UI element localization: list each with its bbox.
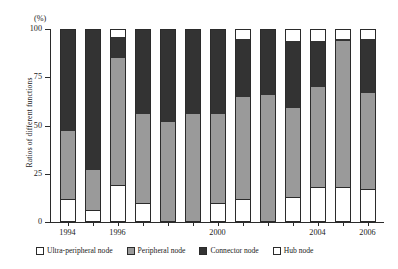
bar-segment-2003-conn [285, 41, 301, 109]
bar-segment-1996-conn [110, 37, 126, 58]
bar-segment-1997-periph [135, 114, 151, 203]
plot-area [51, 29, 384, 222]
bar-segment-2004-hub [310, 29, 326, 41]
legend-label-3: Hub node [284, 246, 314, 255]
legend-item-3[interactable]: Hub node [273, 246, 314, 255]
bar-segment-2006-periph [360, 93, 376, 190]
x-tick-1998 [168, 222, 169, 226]
y-tick-25 [45, 174, 50, 175]
bar-1999 [185, 29, 201, 222]
y-tick-label-50: 50 [18, 122, 42, 130]
bar-segment-2006-hub [360, 29, 376, 39]
bar-segment-2005-periph [335, 41, 351, 188]
x-tick-2006 [368, 222, 369, 226]
bar-segment-2003-periph [285, 108, 301, 197]
bar-segment-2006-ultra [360, 189, 376, 222]
bar-segment-2005-hub [335, 29, 351, 39]
x-tick-2004 [318, 222, 319, 226]
y-tick-0 [45, 222, 50, 223]
x-tick-label-1996: 1996 [98, 228, 138, 237]
bar-1996 [110, 29, 126, 222]
bar-segment-1994-periph [60, 131, 76, 199]
bar-segment-2001-hub [235, 29, 251, 39]
bar-segment-1997-ultra [135, 203, 151, 222]
x-tick-2000 [218, 222, 219, 226]
x-tick-label-2006: 2006 [348, 228, 388, 237]
bar-segment-1995-conn [85, 29, 101, 170]
bar-segment-2001-conn [235, 39, 251, 97]
x-tick-label-2004: 2004 [298, 228, 338, 237]
bar-segment-2001-periph [235, 97, 251, 199]
y-tick-75 [45, 77, 50, 78]
bar-segment-1996-periph [110, 58, 126, 185]
bar-segment-2006-conn [360, 39, 376, 93]
x-tick-label-1994: 1994 [48, 228, 88, 237]
bar-segment-2002-periph [260, 95, 276, 222]
y-tick-50 [45, 126, 50, 127]
legend-swatch-icon-0 [36, 247, 44, 255]
bar-2006 [360, 29, 376, 222]
y-tick-label-100: 100 [18, 25, 42, 33]
bar-1995 [85, 29, 101, 222]
bar-segment-2002-conn [260, 29, 276, 95]
bar-segment-2000-ultra [210, 203, 226, 222]
legend-label-0: Ultra-peripheral node [47, 246, 113, 255]
x-tick-1997 [143, 222, 144, 226]
x-tick-1999 [193, 222, 194, 226]
legend-item-2[interactable]: Connector node [199, 246, 258, 255]
bar-segment-1995-periph [85, 170, 101, 211]
bar-2004 [310, 29, 326, 222]
bar-1994 [60, 29, 76, 222]
bar-segment-2003-hub [285, 29, 301, 41]
bar-segment-1994-ultra [60, 199, 76, 222]
bar-2005 [335, 29, 351, 222]
bar-segment-1996-ultra [110, 185, 126, 222]
x-tick-2003 [293, 222, 294, 226]
bar-segment-1997-conn [135, 29, 151, 114]
y-tick-label-75: 75 [18, 73, 42, 81]
legend-item-1[interactable]: Peripheral node [127, 246, 186, 255]
legend-swatch-icon-3 [273, 247, 281, 255]
bar-segment-1999-periph [185, 114, 201, 222]
x-tick-2002 [268, 222, 269, 226]
x-tick-label-2000: 2000 [198, 228, 238, 237]
x-tick-2001 [243, 222, 244, 226]
x-tick-1995 [93, 222, 94, 226]
y-tick-100 [45, 29, 50, 30]
bar-2002 [260, 29, 276, 222]
bar-segment-2000-conn [210, 29, 226, 114]
bar-segment-1999-conn [185, 29, 201, 114]
legend-item-0[interactable]: Ultra-peripheral node [36, 246, 113, 255]
stacked-bar-chart: Ratios of different functions (%) 025507… [0, 0, 398, 269]
x-tick-1996 [118, 222, 119, 226]
y-tick-label-0: 0 [18, 218, 42, 226]
x-tick-1994 [68, 222, 69, 226]
bar-1997 [135, 29, 151, 222]
bar-2000 [210, 29, 226, 222]
bar-segment-1995-ultra [85, 210, 101, 222]
legend-label-1: Peripheral node [138, 246, 186, 255]
legend-label-2: Connector node [210, 246, 258, 255]
bar-segment-2003-ultra [285, 197, 301, 222]
y-axis-units-label: (%) [34, 14, 46, 23]
bar-2003 [285, 29, 301, 222]
bar-segment-2004-conn [310, 41, 326, 87]
legend-swatch-icon-1 [127, 247, 135, 255]
bar-segment-1998-periph [160, 122, 176, 222]
legend-swatch-icon-2 [199, 247, 207, 255]
bar-segment-2004-periph [310, 87, 326, 187]
y-tick-label-25: 25 [18, 170, 42, 178]
bar-segment-2001-ultra [235, 199, 251, 222]
chart-legend: Ultra-peripheral nodePeripheral nodeConn… [36, 246, 328, 255]
bar-2001 [235, 29, 251, 222]
bar-segment-1994-conn [60, 29, 76, 131]
bar-1998 [160, 29, 176, 222]
bar-segment-2000-periph [210, 114, 226, 203]
bar-segment-2004-ultra [310, 187, 326, 222]
x-tick-2005 [343, 222, 344, 226]
bar-segment-1998-conn [160, 29, 176, 122]
bar-segment-2005-ultra [335, 187, 351, 222]
bar-segment-1996-hub [110, 29, 126, 37]
